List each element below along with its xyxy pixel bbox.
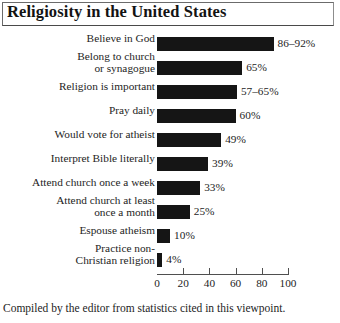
chart-row: Pray daily60%: [0, 105, 340, 129]
bar-value-label: 25%: [194, 204, 215, 218]
bar: [157, 61, 242, 75]
chart-row: Practice non- Christian religion4%: [0, 249, 340, 273]
chart-row: Would vote for atheist49%: [0, 129, 340, 153]
plot-area: Believe in God86–92%Belong to church or …: [0, 30, 340, 282]
x-axis-line: [157, 274, 289, 275]
category-label: Practice non- Christian religion: [5, 243, 155, 267]
bar-value-label: 33%: [204, 180, 225, 194]
bar: [157, 157, 208, 171]
bar: [157, 181, 200, 195]
category-label: Belong to church or synagogue: [5, 51, 155, 75]
category-label: Attend church once a week: [5, 177, 155, 189]
bar-value-label: 60%: [240, 108, 261, 122]
bar: [157, 253, 162, 267]
bar-value-label: 57–65%: [241, 84, 279, 98]
category-label: Religion is important: [5, 81, 155, 93]
category-label: Interpret Bible literally: [5, 153, 155, 165]
bar-value-label: 86–92%: [278, 36, 316, 50]
bar: [157, 109, 236, 123]
x-axis-tick: [183, 268, 184, 274]
x-axis-tick-label: 100: [273, 277, 303, 289]
category-label: Would vote for atheist: [5, 129, 155, 141]
chart-row: Attend church at least once a month25%: [0, 201, 340, 225]
x-axis-tick: [209, 268, 210, 274]
bar: [157, 37, 274, 51]
chart-row: Religion is important57–65%: [0, 81, 340, 105]
bar-value-label: 49%: [225, 132, 246, 146]
bar-value-label: 4%: [166, 252, 181, 266]
x-axis-tick: [262, 268, 263, 274]
bar: [157, 133, 221, 147]
chart-row: Belong to church or synagogue65%: [0, 57, 340, 81]
x-axis-tick: [288, 268, 289, 274]
chart-row: Interpret Bible literally39%: [0, 153, 340, 177]
bar: [157, 205, 190, 219]
category-label: Pray daily: [5, 105, 155, 117]
source-caption: Compiled by the editor from statistics c…: [3, 302, 285, 314]
category-label: Espouse atheism: [5, 225, 155, 237]
religiosity-bar-chart-figure: Religiosity in the United States Believe…: [0, 0, 340, 323]
bar-value-label: 10%: [174, 228, 195, 242]
x-axis-tick: [236, 268, 237, 274]
bar-value-label: 39%: [212, 156, 233, 170]
bar-value-label: 65%: [246, 60, 267, 74]
bar: [157, 85, 237, 99]
bar: [157, 229, 170, 243]
category-label: Attend church at least once a month: [5, 195, 155, 219]
page-title: Religiosity in the United States: [7, 2, 227, 22]
category-label: Believe in God: [5, 33, 155, 45]
